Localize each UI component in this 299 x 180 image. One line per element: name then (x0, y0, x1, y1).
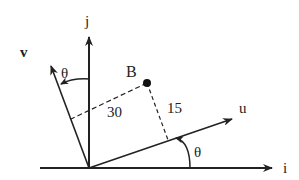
theta-u-arc (176, 138, 190, 168)
theta-u-label: θ (194, 144, 201, 160)
v-vector-label: v (20, 44, 28, 60)
theta-v-label: θ (61, 65, 68, 81)
point-b-marker (143, 79, 151, 87)
point-b-label: B (126, 63, 137, 80)
u-vector-label: u (239, 100, 247, 116)
i-axis-label: i (283, 160, 287, 176)
u-vector (89, 119, 232, 168)
projection-30-label: 30 (107, 104, 122, 120)
j-axis-label: j (84, 13, 89, 29)
projection-15-label: 15 (167, 100, 182, 116)
v-vector (51, 66, 89, 168)
coordinate-diagram: i j u v B θ θ 30 15 (0, 0, 299, 180)
